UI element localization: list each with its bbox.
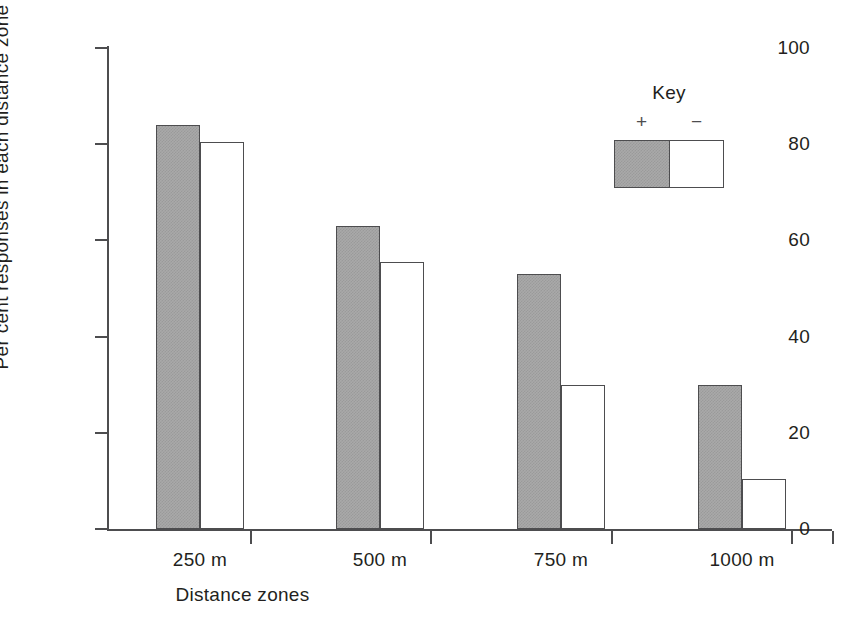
bar-1000m-minus [742, 479, 786, 530]
x-axis-line [107, 529, 832, 531]
y-axis-tick [95, 432, 107, 434]
bar-250m-plus [156, 125, 200, 529]
y-axis-tick-label: 100 [777, 37, 810, 59]
y-axis-tick-label: 40 [788, 326, 810, 348]
y-axis-tick [95, 528, 107, 530]
bar-750m-plus [517, 274, 561, 529]
legend-swatch-plus [615, 141, 670, 187]
bar-750m-minus [561, 385, 605, 529]
y-axis-tick [95, 47, 107, 49]
legend-symbols: + − [614, 112, 724, 131]
y-axis-tick [95, 143, 107, 145]
bar-250m-minus [200, 142, 244, 529]
x-axis-title-text: Distance zones [175, 584, 309, 605]
x-axis-tick [430, 531, 432, 544]
x-axis-tick-label: 500 m [353, 549, 407, 571]
legend-symbol-plus: + [614, 112, 669, 131]
legend-swatch-minus [670, 141, 724, 187]
y-axis-tick-label: 20 [788, 422, 810, 444]
y-axis-tick-label: 80 [788, 133, 810, 155]
y-axis-title: Per cent responses in each distance zone [0, 0, 13, 507]
x-axis-title: Distance zones [0, 584, 865, 606]
x-axis-tick-label: 250 m [173, 549, 227, 571]
x-axis-tick-label: 1000 m [709, 549, 774, 571]
bar-1000m-plus [698, 385, 742, 529]
y-axis-tick-label: 0 [799, 518, 810, 540]
legend-symbol-minus: − [669, 112, 724, 131]
bar-500m-plus [336, 226, 380, 529]
y-axis-tick [95, 239, 107, 241]
bar-chart-figure: Per cent responses in each distance zone… [0, 0, 865, 628]
x-axis-tick [832, 531, 834, 544]
x-axis-tick [250, 531, 252, 544]
x-axis-tick-label: 750 m [534, 549, 588, 571]
legend-title: Key [614, 82, 724, 104]
bar-500m-minus [380, 262, 424, 529]
legend-key: Key + − [614, 82, 724, 188]
y-axis-tick-label: 60 [788, 229, 810, 251]
y-axis-tick [95, 336, 107, 338]
x-axis-tick [791, 531, 793, 544]
x-axis-tick [611, 531, 613, 544]
legend-swatches [614, 140, 724, 188]
